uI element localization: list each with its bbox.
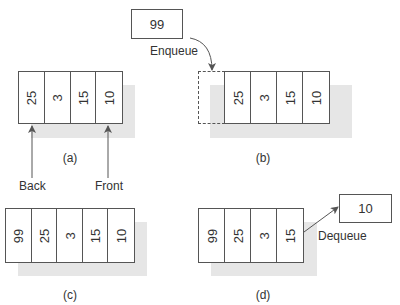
enqueue-label: Enqueue (150, 44, 198, 58)
queue-d-cell: 99 (199, 209, 225, 262)
queue-b: 25 3 15 10 (224, 71, 330, 124)
queue-c-cell: 3 (57, 209, 83, 262)
queue-c-cell: 10 (108, 209, 134, 262)
queue-a-cell: 10 (96, 72, 122, 123)
queue-a-cell: 3 (45, 72, 71, 123)
queue-b-cell: 25 (225, 72, 251, 123)
dequeue-label: Dequeue (318, 229, 367, 243)
queue-d-cell: 25 (225, 209, 251, 262)
queue-d: 99 25 3 15 (198, 208, 304, 263)
queue-d-cell: 3 (251, 209, 277, 262)
queue-a: 25 3 15 10 (18, 71, 123, 124)
front-label: Front (95, 179, 123, 193)
queue-a-cell: 25 (19, 72, 45, 123)
caption-c: (c) (63, 288, 77, 302)
dequeue-value-box: 10 (339, 194, 392, 223)
queue-c-cell: 15 (83, 209, 109, 262)
caption-d: (d) (256, 288, 271, 302)
queue-b-new-slot (198, 71, 225, 124)
queue-a-cell: 15 (71, 72, 97, 123)
queue-c-cell: 99 (6, 209, 32, 262)
back-label: Back (19, 179, 46, 193)
caption-a: (a) (63, 151, 78, 165)
queue-c-cell: 25 (32, 209, 58, 262)
queue-c: 99 25 3 15 10 (5, 208, 135, 263)
enqueue-value-box: 99 (131, 9, 183, 39)
queue-d-cell: 15 (277, 209, 303, 262)
queue-b-cell: 10 (303, 72, 329, 123)
queue-b-cell: 15 (277, 72, 303, 123)
queue-b-cell: 3 (251, 72, 277, 123)
caption-b: (b) (256, 151, 271, 165)
